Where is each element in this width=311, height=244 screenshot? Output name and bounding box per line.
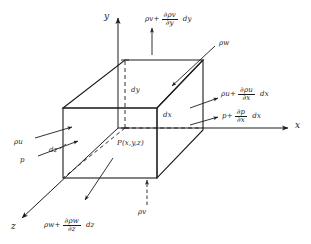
axis-label-y: y	[104, 12, 109, 21]
arrow-outflow-rho-w	[85, 158, 113, 200]
flux-right-upper-operator: +	[230, 91, 236, 98]
flux-expression-top: ρv + ∂ρv ∂y dy	[145, 8, 192, 27]
flux-top-denominator: ∂y	[164, 20, 176, 27]
flux-top-base: ρv	[145, 16, 153, 23]
flux-top-differential: dy	[180, 16, 192, 23]
dimension-label-dz: dz	[49, 147, 58, 154]
flux-expression-right-upper: ρu + ∂ρu ∂x dx	[221, 83, 269, 102]
arrow-right-outflow-momentum	[190, 98, 218, 108]
flux-label-left-upper: ρu	[14, 139, 23, 146]
axis-label-z: z	[11, 222, 16, 231]
dimension-label-dy: dy	[131, 87, 140, 94]
flux-bottom-denominator: ∂z	[66, 226, 78, 233]
flux-bottom-numerator: ∂ρw	[63, 218, 81, 225]
flux-label-left-lower: p	[20, 157, 25, 164]
axis-z	[22, 128, 118, 218]
point-label-P: P(x,y,z)	[117, 140, 144, 147]
flux-bottom-fraction: ∂ρw ∂z	[63, 218, 81, 234]
arrow-inflow-rho-w	[172, 46, 215, 86]
flux-top-operator: +	[153, 16, 159, 23]
axis-label-x: x	[295, 121, 300, 130]
flux-expression-bottom: ρw + ∂ρw ∂z dz	[44, 214, 95, 233]
flux-right-upper-denominator: ∂x	[241, 95, 253, 102]
flux-bottom-operator: +	[55, 222, 61, 229]
arrow-left-inflow-momentum	[35, 127, 72, 138]
flux-label-inflow-rho-w: ρw	[219, 40, 230, 47]
flux-right-upper-base: ρu	[221, 91, 230, 98]
flux-top-numerator: ∂ρv	[162, 12, 178, 19]
flux-right-lower-denominator: ∂x	[235, 117, 247, 124]
flux-bottom-base: ρw	[44, 222, 55, 229]
flux-right-lower-numerator: ∂p	[235, 109, 248, 116]
flux-right-lower-fraction: ∂p ∂x	[235, 109, 248, 125]
dimension-label-dx: dx	[163, 112, 172, 119]
flux-right-lower-differential: dx	[249, 113, 261, 120]
arrow-right-outflow-pressure	[190, 117, 218, 125]
fluid-control-volume-figure: y x z P(x,y,z) dy dx dz ρu p ρw ρv ρv + …	[0, 0, 311, 244]
flux-bottom-differential: dz	[83, 222, 95, 229]
diagram-canvas	[0, 0, 311, 244]
flux-right-upper-numerator: ∂ρu	[238, 87, 255, 94]
flux-top-fraction: ∂ρv ∂y	[162, 12, 178, 28]
flux-right-upper-differential: dx	[257, 91, 269, 98]
flux-label-inflow-rho-v: ρv	[138, 209, 146, 216]
flux-expression-right-lower: p + ∂p ∂x dx	[222, 105, 261, 124]
flux-right-upper-fraction: ∂ρu ∂x	[238, 87, 255, 103]
dz-tick	[58, 144, 66, 150]
flux-right-lower-operator: +	[227, 113, 233, 120]
arrow-left-inflow-pressure	[38, 141, 78, 156]
